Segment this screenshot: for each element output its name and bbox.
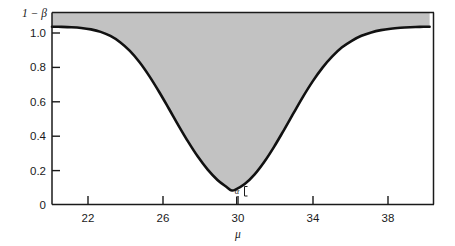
alpha-label: α [235,186,240,196]
x-tick-label-26: 26 [157,212,170,224]
y-tick-label-0.4: 0.4 [30,130,47,142]
y-tick-marks [52,33,60,171]
beta-region-shading [52,13,430,191]
x-tick-label-38: 38 [382,212,395,224]
y-axis-title: 1 − β [22,7,47,20]
power-curve-figure: 1.0 0.8 0.6 0.4 0.2 0 1 − β 22 26 30 34 … [0,0,455,246]
y-tick-label-0.8: 0.8 [30,61,46,73]
y-tick-label-1.0: 1.0 [30,27,46,39]
y-tick-label-0.6: 0.6 [30,96,46,108]
x-tick-label-22: 22 [82,212,95,224]
y-tick-label-0.2: 0.2 [30,165,46,177]
chart-canvas: 1.0 0.8 0.6 0.4 0.2 0 1 − β 22 26 30 34 … [0,0,455,246]
x-tick-label-30: 30 [232,212,245,224]
x-axis-title: μ [234,228,241,241]
x-tick-marks [88,196,388,205]
alpha-annotation: α [235,186,248,204]
y-tick-label-0: 0 [40,199,46,211]
x-tick-label-34: 34 [307,212,320,224]
